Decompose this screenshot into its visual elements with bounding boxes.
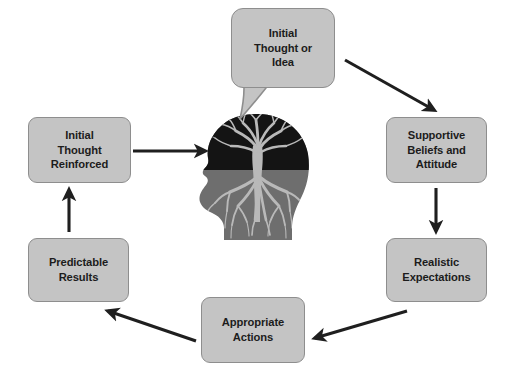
node-initial-thought-idea[interactable]: Initial Thought or Idea	[231, 8, 335, 88]
node-realistic-expectations[interactable]: Realistic Expectations	[386, 238, 487, 302]
arrow-actions-to-results	[108, 311, 196, 341]
node-realistic-expectations-label: Realistic Expectations	[399, 255, 473, 284]
arrow-expectations-to-actions	[315, 311, 407, 338]
node-supportive-beliefs[interactable]: Supportive Beliefs and Attitude	[386, 117, 487, 183]
head-with-tree-illustration	[196, 104, 320, 240]
node-initial-thought-reinforced-label: Initial Thought Reinforced	[48, 128, 111, 172]
arrow-idea-to-beliefs	[345, 60, 434, 110]
node-appropriate-actions[interactable]: Appropriate Actions	[201, 297, 305, 363]
node-initial-thought-reinforced[interactable]: Initial Thought Reinforced	[28, 117, 131, 183]
node-predictable-results[interactable]: Predictable Results	[28, 238, 129, 302]
node-predictable-results-label: Predictable Results	[46, 255, 111, 284]
node-supportive-beliefs-label: Supportive Beliefs and Attitude	[404, 128, 469, 172]
node-appropriate-actions-label: Appropriate Actions	[219, 315, 287, 344]
node-initial-thought-idea-label: Initial Thought or Idea	[251, 26, 315, 70]
